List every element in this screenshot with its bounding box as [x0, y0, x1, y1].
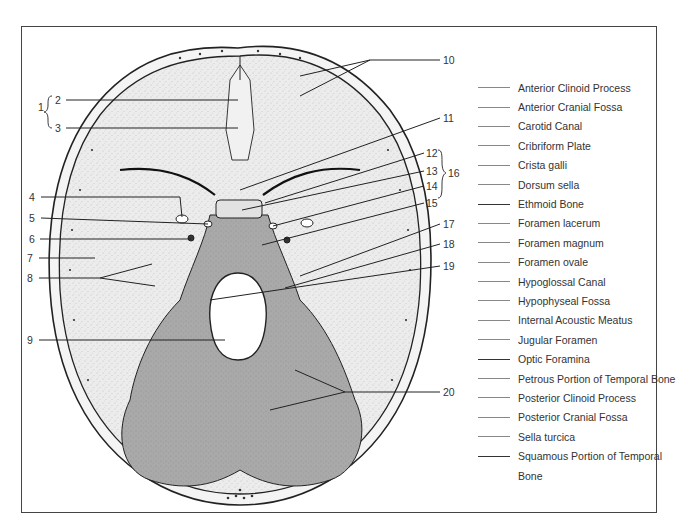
callout-11: 11 [443, 112, 454, 124]
answer-blank[interactable] [478, 145, 510, 146]
callout-15: 15 [426, 197, 438, 209]
term-item: Optic Foramina [478, 349, 675, 368]
callout-16: 16 [448, 167, 460, 179]
term-item: Foramen magnum [478, 233, 675, 252]
callout-18: 18 [443, 238, 455, 250]
answer-blank[interactable] [478, 107, 510, 108]
answer-blank[interactable] [478, 223, 510, 224]
callout-12: 12 [426, 147, 438, 159]
term-item: Foramen lacerum [478, 214, 675, 233]
term-item: Internal Acoustic Meatus [478, 311, 675, 330]
term-item-continued: Bone [478, 466, 675, 485]
term-item: Petrous Portion of Temporal Bone [478, 369, 675, 388]
term-item: Cribriform Plate [478, 136, 675, 155]
answer-blank[interactable] [478, 242, 510, 243]
answer-blank[interactable] [478, 204, 510, 205]
callout-1: 1 [38, 101, 44, 113]
sella-turcica [216, 200, 262, 218]
callout-7: 7 [27, 252, 33, 264]
answer-blank[interactable] [478, 397, 510, 398]
brace-1 [44, 96, 52, 128]
term-item: Jugular Foramen [478, 330, 675, 349]
brace-16 [438, 150, 446, 198]
callout-17: 17 [443, 218, 455, 230]
callout-13: 13 [426, 165, 438, 177]
term-item: Hypophyseal Fossa [478, 291, 675, 310]
answer-blank[interactable] [478, 184, 510, 185]
answer-blank[interactable] [478, 87, 510, 88]
callout-20: 20 [443, 386, 455, 398]
foramen-magnum [210, 273, 267, 360]
term-item: Posterior Clinoid Process [478, 388, 675, 407]
term-item: Carotid Canal [478, 117, 675, 136]
term-item: Hypoglossal Canal [478, 272, 675, 291]
term-list: Anterior Clinoid Process Anterior Crania… [478, 78, 675, 485]
term-item: Dorsum sella [478, 175, 675, 194]
callout-19: 19 [443, 260, 455, 272]
answer-blank[interactable] [478, 378, 510, 379]
callout-10: 10 [443, 54, 455, 66]
term-item: Squamous Portion of Temporal [478, 446, 675, 465]
term-item: Ethmoid Bone [478, 194, 675, 213]
term-item: Anterior Cranial Fossa [478, 97, 675, 116]
callout-3: 3 [55, 122, 61, 134]
answer-blank[interactable] [478, 359, 510, 360]
term-item: Foramen ovale [478, 253, 675, 272]
answer-blank[interactable] [478, 436, 510, 437]
answer-blank[interactable] [478, 300, 510, 301]
term-item: Anterior Clinoid Process [478, 78, 675, 97]
callout-4: 4 [29, 191, 35, 203]
answer-blank[interactable] [478, 456, 510, 457]
callout-8: 8 [27, 272, 33, 284]
callout-6: 6 [29, 233, 35, 245]
answer-blank[interactable] [478, 126, 510, 127]
answer-blank[interactable] [478, 165, 510, 166]
answer-blank[interactable] [478, 339, 510, 340]
answer-blank[interactable] [478, 262, 510, 263]
callout-14: 14 [426, 180, 438, 192]
callout-9: 9 [27, 334, 33, 346]
term-item: Posterior Cranial Fossa [478, 408, 675, 427]
callout-2: 2 [55, 94, 61, 106]
answer-blank[interactable] [478, 417, 510, 418]
term-item: Sella turcica [478, 427, 675, 446]
term-item: Crista galli [478, 156, 675, 175]
answer-blank[interactable] [478, 320, 510, 321]
callout-5: 5 [29, 212, 35, 224]
answer-blank[interactable] [478, 281, 510, 282]
